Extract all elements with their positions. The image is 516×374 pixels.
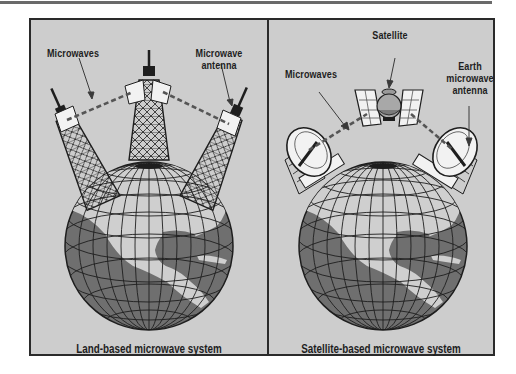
panel-satellite-based: Satellite Microwaves Earth microwave ant… bbox=[269, 20, 493, 354]
tower-icon bbox=[129, 50, 169, 160]
top-rule bbox=[0, 1, 492, 4]
label-microwave-antenna: Microwave antenna bbox=[186, 47, 252, 71]
label-microwaves: Microwaves bbox=[280, 68, 342, 80]
caption-satellite-based: Satellite-based microwave system bbox=[289, 342, 473, 356]
tower-icon bbox=[180, 81, 264, 211]
label-microwaves: Microwaves bbox=[40, 47, 106, 59]
panel-land-based: Microwaves Microwave antenna Land-based … bbox=[31, 20, 269, 354]
caption-land-based: Land-based microwave system bbox=[59, 342, 239, 356]
label-earth-microwave-antenna: Earth microwave antenna bbox=[440, 60, 501, 96]
satellite-icon bbox=[355, 89, 423, 126]
label-satellite: Satellite bbox=[361, 29, 418, 41]
tower-icon bbox=[36, 81, 120, 211]
microwave-signal-icon bbox=[309, 114, 453, 150]
figure-frame: Microwaves Microwave antenna Land-based … bbox=[29, 18, 495, 356]
